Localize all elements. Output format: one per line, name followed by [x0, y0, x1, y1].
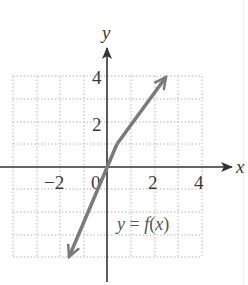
function-graph: x y −2 0 2 4 2 4 y = f(x) [0, 0, 248, 285]
y-axis-label: y [100, 22, 111, 43]
x-tick-label: −2 [44, 172, 64, 193]
function-label: y = f(x) [115, 214, 169, 235]
y-tick-label: 4 [92, 67, 102, 88]
y-tick-label: 2 [92, 114, 102, 135]
x-axis-label: x [235, 156, 245, 177]
x-tick-label: 4 [194, 172, 204, 193]
x-tick-label: 2 [148, 172, 158, 193]
